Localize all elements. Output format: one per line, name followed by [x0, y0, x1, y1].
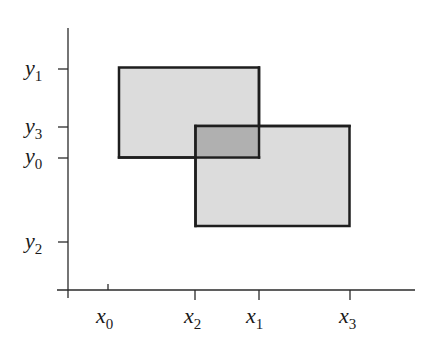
overlap-region [197, 127, 258, 156]
x0-label: x0 [95, 303, 113, 332]
y0-label: y0 [23, 143, 42, 172]
x2-label: x2 [183, 303, 201, 332]
y1-label: y1 [23, 55, 42, 84]
x3-label: x3 [338, 303, 356, 332]
x1-label: x1 [245, 303, 263, 332]
y2-label: y2 [23, 228, 42, 257]
y3-label: y3 [23, 113, 42, 142]
rectangle-overlap-diagram: y1 y3 y0 y2 x0 x2 x1 x3 [0, 0, 442, 354]
